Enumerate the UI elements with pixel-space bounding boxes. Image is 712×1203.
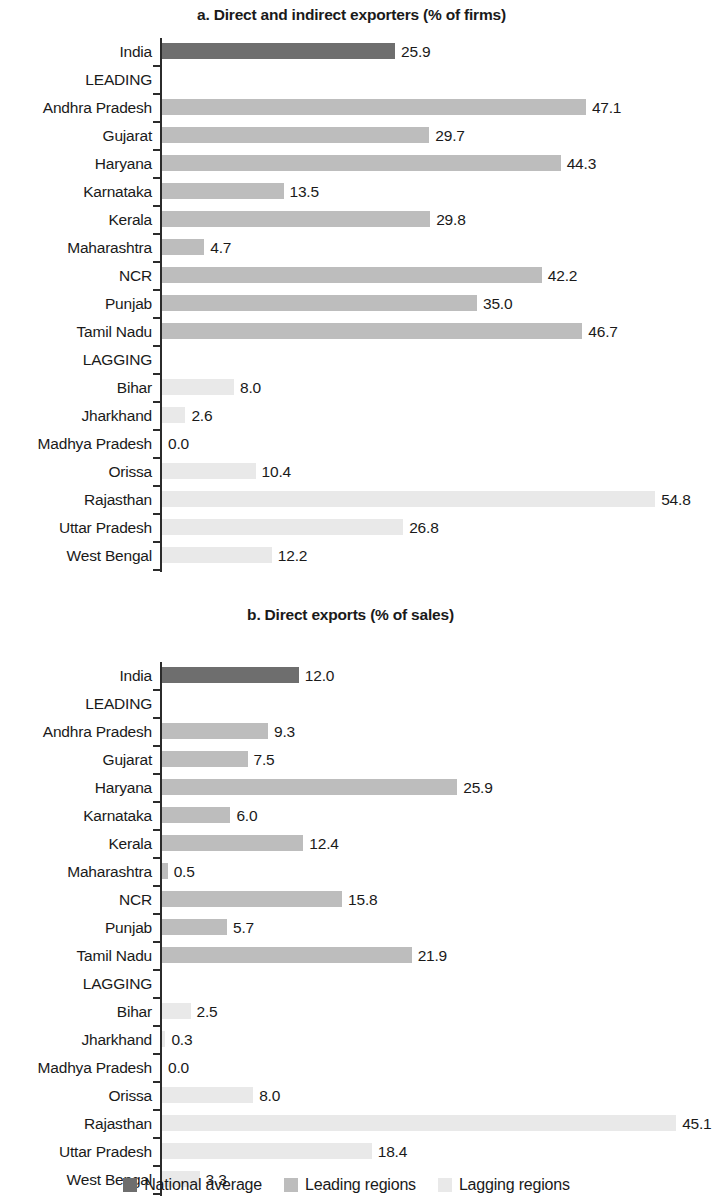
chart-b-bar-row: Punjab5.7 [0,914,693,942]
chart-b-bar-row: Uttar Pradesh18.4 [0,1138,693,1166]
chart-b-bar-value-label: 12.4 [309,830,338,858]
chart-b-bar-value-label: 45.1 [682,1110,711,1138]
legend-item-leading: Leading regions [284,1176,416,1194]
chart-a-bar [162,239,204,255]
chart-b-bar-value-label: 6.0 [236,802,257,830]
chart-a-bar-value-label: 4.7 [210,234,231,262]
chart-b-group-header-row: LAGGING [0,970,693,998]
chart-a-bar [162,43,395,59]
chart-b-bar-value-label: 9.3 [274,718,295,746]
legend-label-lagging: Lagging regions [459,1176,570,1194]
chart-a-category-label: Tamil Nadu [0,318,152,346]
chart-b-title: b. Direct exports (% of sales) [0,606,693,624]
chart-a-bar-value-label: 12.2 [278,542,307,570]
chart-panel-a: a. Direct and indirect exporters (% of f… [0,0,693,580]
chart-legend: National averageLeading regionsLagging r… [0,1172,693,1198]
chart-b-bar [162,947,412,963]
chart-a-category-label: Jharkhand [0,402,152,430]
chart-b-bar [162,1031,165,1047]
chart-b-bar [162,779,457,795]
chart-a-bar-row: Rajasthan54.8 [0,486,693,514]
chart-a-bar-row: West Bengal12.2 [0,542,693,570]
chart-b-category-label: India [0,662,152,690]
chart-a-bar-value-label: 29.7 [435,122,464,150]
chart-b-bar-value-label: 0.3 [171,1026,192,1054]
chart-b-bar-row: Maharashtra0.5 [0,858,693,886]
chart-a-bar [162,267,542,283]
chart-a-bar-row: Orissa10.4 [0,458,693,486]
chart-a-group-header-row: LAGGING [0,346,693,374]
chart-a-category-label: West Bengal [0,542,152,570]
chart-b-bar-value-label: 5.7 [233,914,254,942]
chart-b-group-header-row: LEADING [0,690,693,718]
chart-b-bar-row: Bihar2.5 [0,998,693,1026]
chart-a-bar-row: Andhra Pradesh47.1 [0,94,693,122]
chart-b-bar-row: NCR15.8 [0,886,693,914]
chart-b-bar-value-label: 12.0 [305,662,334,690]
chart-b-bar [162,723,268,739]
chart-b-category-label: Rajasthan [0,1110,152,1138]
chart-b-bar [162,863,168,879]
chart-a-bar [162,407,185,423]
chart-a-category-label: Andhra Pradesh [0,94,152,122]
chart-a-category-label: Gujarat [0,122,152,150]
chart-b-category-label: Madhya Pradesh [0,1054,152,1082]
chart-b-bar-value-label: 18.4 [378,1138,407,1166]
chart-a-bar-value-label: 29.8 [436,206,465,234]
chart-a-bar-row: Punjab35.0 [0,290,693,318]
chart-b-bar-value-label: 21.9 [418,942,447,970]
chart-b-bar-row: Rajasthan45.1 [0,1110,693,1138]
chart-a-bar [162,211,430,227]
chart-a-bar [162,295,477,311]
chart-b-bar-value-label: 0.0 [168,1054,189,1082]
chart-a-bar-row: Gujarat29.7 [0,122,693,150]
chart-b-bar-value-label: 8.0 [259,1082,280,1110]
chart-b-category-label: Orissa [0,1082,152,1110]
chart-b-category-label: NCR [0,886,152,914]
chart-a-category-label: India [0,38,152,66]
chart-b-bar-value-label: 15.8 [348,886,377,914]
legend-label-national: National average [144,1176,262,1194]
chart-b-bar-row: Jharkhand0.3 [0,1026,693,1054]
chart-a-bar-row: Tamil Nadu46.7 [0,318,693,346]
chart-b-category-label: Karnataka [0,802,152,830]
chart-b-category-label: LAGGING [0,970,152,998]
chart-b-bar-value-label: 0.5 [174,858,195,886]
chart-a-bar-row: India25.9 [0,38,693,66]
chart-a-bar-value-label: 0.0 [168,430,189,458]
chart-a-bar-row: Kerala29.8 [0,206,693,234]
chart-b-bar-row: Haryana25.9 [0,774,693,802]
chart-a-bar [162,127,429,143]
chart-a-group-header-row: LEADING [0,66,693,94]
chart-b-bar-row: India12.0 [0,662,693,690]
chart-a-bar-value-label: 54.8 [661,486,690,514]
chart-b-category-label: Tamil Nadu [0,942,152,970]
chart-a-category-label: LAGGING [0,346,152,374]
chart-b-bar-row: Andhra Pradesh9.3 [0,718,693,746]
chart-a-bar-value-label: 26.8 [409,514,438,542]
chart-b-bar [162,919,227,935]
chart-b-bar [162,835,303,851]
chart-b-category-label: Andhra Pradesh [0,718,152,746]
chart-panel-b: b. Direct exports (% of sales) India12.0… [0,600,693,1180]
chart-a-bar-row: Haryana44.3 [0,150,693,178]
chart-a-bar [162,491,655,507]
chart-a-category-label: LEADING [0,66,152,94]
chart-a-bar [162,323,582,339]
chart-b-bar-row: Gujarat7.5 [0,746,693,774]
chart-a-category-label: Punjab [0,290,152,318]
chart-b-bar [162,1115,676,1131]
chart-b-bar-row: Tamil Nadu21.9 [0,942,693,970]
chart-a-bar-value-label: 8.0 [240,374,261,402]
chart-a-bar-row: Bihar8.0 [0,374,693,402]
chart-b-bar [162,1003,191,1019]
chart-a-category-label: Bihar [0,374,152,402]
legend-item-national: National average [123,1176,262,1194]
chart-b-category-label: Gujarat [0,746,152,774]
chart-a-bar-row: Maharashtra4.7 [0,234,693,262]
chart-a-bar-row: Karnataka13.5 [0,178,693,206]
chart-a-category-label: Maharashtra [0,234,152,262]
chart-a-title: a. Direct and indirect exporters (% of f… [0,6,693,24]
chart-b-category-label: Jharkhand [0,1026,152,1054]
chart-b-bar-value-label: 2.5 [197,998,218,1026]
